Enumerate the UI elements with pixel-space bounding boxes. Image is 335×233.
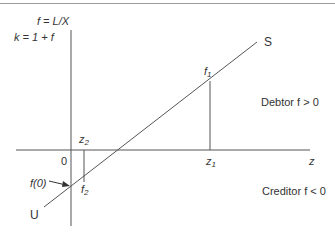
- region-below-label: Creditor f < 0: [262, 186, 326, 197]
- y-axis-label: f = L/X: [37, 16, 69, 27]
- z2-label: z2: [79, 134, 89, 147]
- origin-label: 0: [61, 156, 67, 167]
- f2-label: f2: [81, 184, 89, 197]
- intercept-label: f(0): [30, 178, 47, 189]
- f1-label: f1: [204, 66, 212, 79]
- y-axis-sublabel: k = 1 + f: [14, 32, 54, 43]
- x-axis-label: z: [309, 156, 315, 167]
- f-line: [44, 42, 257, 207]
- z1-label: z1: [206, 156, 216, 169]
- line-end-label: S: [264, 36, 272, 48]
- line-start-label: U: [30, 209, 39, 221]
- region-above-label: Debtor f > 0: [261, 97, 319, 108]
- f0-arrow-head-icon: [62, 181, 70, 187]
